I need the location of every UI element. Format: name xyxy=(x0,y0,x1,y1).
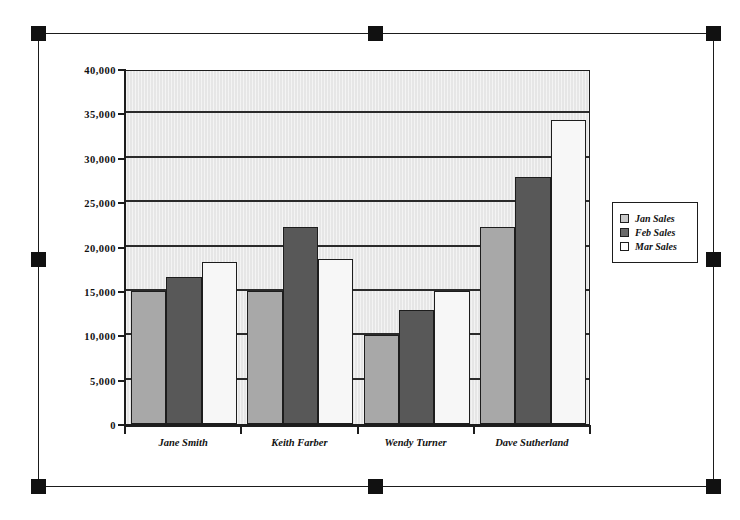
bar-jan-sales-jane-smith[interactable] xyxy=(131,291,166,424)
y-tick-label-30000: 30,000 xyxy=(38,153,116,164)
x-axis-label-keith-farber: Keith Farber xyxy=(271,437,327,448)
x-tick-0 xyxy=(124,427,126,434)
x-axis-label-wendy-turner: Wendy Turner xyxy=(385,437,447,448)
y-tick-label-25000: 25,000 xyxy=(38,198,116,209)
legend-label: Jan Sales xyxy=(635,213,675,224)
handle-top-center[interactable] xyxy=(368,26,383,41)
handle-bottom-center[interactable] xyxy=(368,479,383,494)
handle-top-left[interactable] xyxy=(31,26,46,41)
y-axis-labels: 05,00010,00015,00020,00025,00030,00035,0… xyxy=(38,33,116,487)
bar-feb-sales-dave-sutherland[interactable] xyxy=(515,177,550,424)
legend-swatch-icon-1 xyxy=(620,228,629,237)
y-tick-40000 xyxy=(118,69,126,71)
bar-feb-sales-wendy-turner[interactable] xyxy=(399,310,434,424)
legend-swatch-icon-2 xyxy=(620,242,629,251)
bar-jan-sales-dave-sutherland[interactable] xyxy=(480,227,515,424)
bar-feb-sales-jane-smith[interactable] xyxy=(166,277,201,424)
y-tick-label-5000: 5,000 xyxy=(38,375,116,386)
plot-area xyxy=(125,70,590,425)
gridline-35000 xyxy=(126,111,589,113)
legend-item-mar-sales[interactable]: Mar Sales xyxy=(620,241,689,252)
bar-feb-sales-keith-farber[interactable] xyxy=(283,227,318,424)
legend-item-feb-sales[interactable]: Feb Sales xyxy=(620,227,689,238)
legend-swatch-icon-0 xyxy=(620,214,629,223)
x-tick-4 xyxy=(589,427,591,434)
y-tick-label-40000: 40,000 xyxy=(38,65,116,76)
legend-item-jan-sales[interactable]: Jan Sales xyxy=(620,213,689,224)
y-tick-30000 xyxy=(118,158,126,160)
bar-mar-sales-jane-smith[interactable] xyxy=(202,262,237,424)
x-tick-2 xyxy=(357,427,359,434)
x-axis-label-jane-smith: Jane Smith xyxy=(158,437,207,448)
handle-middle-right[interactable] xyxy=(706,252,721,267)
chart-legend[interactable]: Jan SalesFeb SalesMar Sales xyxy=(612,202,698,263)
gridline-30000 xyxy=(126,156,589,158)
handle-middle-left[interactable] xyxy=(31,252,46,267)
y-tick-15000 xyxy=(118,291,126,293)
y-tick-0 xyxy=(118,424,126,426)
bar-mar-sales-wendy-turner[interactable] xyxy=(434,291,469,424)
x-axis-label-dave-sutherland: Dave Sutherland xyxy=(495,437,568,448)
y-tick-20000 xyxy=(118,247,126,249)
bar-chart[interactable]: 05,00010,00015,00020,00025,00030,00035,0… xyxy=(38,33,714,487)
handle-bottom-right[interactable] xyxy=(706,479,721,494)
y-tick-label-15000: 15,000 xyxy=(38,286,116,297)
legend-label: Feb Sales xyxy=(635,227,675,238)
y-tick-label-35000: 35,000 xyxy=(38,109,116,120)
y-tick-10000 xyxy=(118,335,126,337)
bar-jan-sales-keith-farber[interactable] xyxy=(247,291,282,424)
bar-jan-sales-wendy-turner[interactable] xyxy=(364,335,399,424)
bar-mar-sales-keith-farber[interactable] xyxy=(318,259,353,424)
x-tick-1 xyxy=(240,427,242,434)
legend-label: Mar Sales xyxy=(635,241,677,252)
x-tick-3 xyxy=(473,427,475,434)
bar-mar-sales-dave-sutherland[interactable] xyxy=(551,120,586,424)
y-tick-label-0: 0 xyxy=(38,420,116,431)
handle-bottom-left[interactable] xyxy=(31,479,46,494)
y-tick-label-20000: 20,000 xyxy=(38,242,116,253)
handle-top-right[interactable] xyxy=(706,26,721,41)
y-tick-25000 xyxy=(118,202,126,204)
y-tick-label-10000: 10,000 xyxy=(38,331,116,342)
y-tick-5000 xyxy=(118,380,126,382)
y-tick-35000 xyxy=(118,113,126,115)
